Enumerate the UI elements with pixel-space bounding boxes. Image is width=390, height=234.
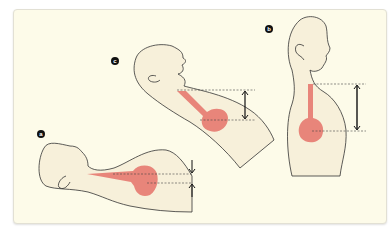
figure-a — [39, 143, 195, 212]
figure-a-label: a — [37, 130, 45, 138]
anatomical-diagram — [0, 0, 390, 234]
figure-b-body-outline — [288, 17, 347, 176]
figure-c — [134, 45, 274, 168]
figure-b-label: b — [265, 25, 273, 33]
figure-c-label: c — [111, 57, 119, 65]
figure-c-body-outline — [134, 45, 274, 168]
figure-b — [288, 17, 367, 176]
